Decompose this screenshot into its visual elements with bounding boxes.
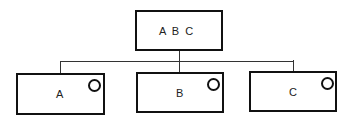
child-b-connector <box>179 61 180 72</box>
child-node-b-label: B <box>176 87 183 99</box>
circle-icon <box>88 79 101 92</box>
child-node-c: C <box>249 71 337 112</box>
root-node: A B C <box>135 10 223 51</box>
circle-icon <box>207 78 220 91</box>
child-node-b: B <box>136 72 224 113</box>
child-node-a-label: A <box>56 88 63 100</box>
horizontal-bus-line <box>60 61 294 62</box>
root-node-label: A B C <box>159 25 193 37</box>
child-node-c-label: C <box>289 86 297 98</box>
root-stem-line <box>179 50 180 61</box>
circle-icon <box>321 77 334 90</box>
child-a-connector <box>60 61 61 73</box>
child-c-connector <box>293 60 294 71</box>
child-node-a: A <box>16 73 105 115</box>
